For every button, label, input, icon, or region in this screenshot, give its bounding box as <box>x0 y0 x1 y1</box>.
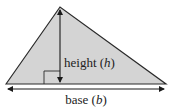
height-label: height (h) <box>64 55 115 70</box>
triangle-diagram: height (h) base (b) <box>0 0 169 109</box>
base-label: base (b) <box>65 92 107 107</box>
triangle-shape <box>6 7 166 84</box>
